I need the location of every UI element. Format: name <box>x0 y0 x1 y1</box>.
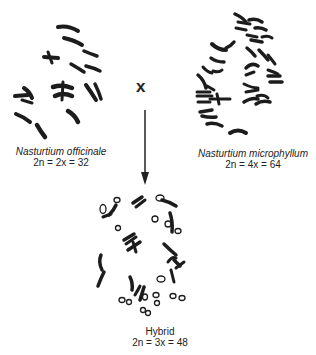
right-chromosome-formula: 2n = 4x = 64 <box>190 159 316 170</box>
officinale-karyotype <box>0 0 316 355</box>
down-arrow-icon <box>140 110 150 186</box>
cross-symbol: x <box>136 77 145 97</box>
left-chromosome-formula: 2n = 2x = 32 <box>6 157 116 168</box>
hybrid-label: Hybrid <box>110 326 210 337</box>
hybrid-chromosome-formula: 2n = 3x = 48 <box>110 337 210 348</box>
left-species-name: Nasturtium officinale <box>6 146 116 157</box>
right-species-name: Nasturtium microphyllum <box>190 148 316 159</box>
